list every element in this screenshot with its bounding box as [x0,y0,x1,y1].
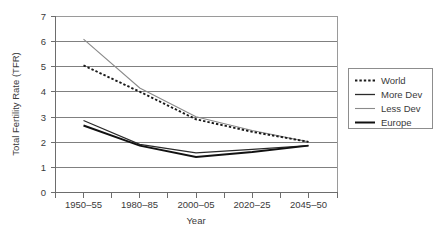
y-tick-label: 2 [41,137,46,148]
legend-label-more-dev: More Dev [381,89,422,100]
y-tick-labels: 7 6 5 4 3 2 1 0 [41,11,46,198]
y-axis-title: Total Fertility Rate (TFR) [10,52,21,155]
y-tick-label: 5 [41,61,46,72]
y-tick-label: 1 [41,162,46,173]
legend-label-less-dev: Less Dev [381,103,421,114]
gridlines [56,42,337,168]
legend: World More Dev Less Dev Europe [349,69,433,129]
series-line-world [84,65,309,141]
series-group [84,39,309,157]
y-tick-label: 7 [41,11,46,22]
plot-frame [56,17,338,193]
fertility-rate-line-chart: 7 6 5 4 3 2 1 0 1950–55 1980–85 2000–05 … [0,0,442,235]
x-tick-label: 2020–25 [234,199,271,210]
x-axis [55,193,338,198]
y-tick-label: 6 [41,36,46,47]
y-tick-label: 3 [41,112,46,123]
chart-canvas: 7 6 5 4 3 2 1 0 1950–55 1980–85 2000–05 … [0,0,442,235]
x-tick-labels: 1950–55 1980–85 2000–05 2020–25 2045–50 [65,199,327,210]
series-line-europe [84,126,309,157]
y-axis [51,16,56,193]
x-tick-label: 1950–55 [65,199,102,210]
legend-label-world: World [381,75,406,86]
y-tick-label: 4 [41,86,46,97]
legend-label-europe: Europe [381,117,412,128]
series-line-less-dev [84,39,309,142]
x-axis-title: Year [186,215,205,226]
y-tick-label: 0 [41,187,46,198]
x-tick-label: 1980–85 [121,199,158,210]
x-tick-label: 2000–05 [178,199,215,210]
x-tick-label: 2045–50 [290,199,327,210]
